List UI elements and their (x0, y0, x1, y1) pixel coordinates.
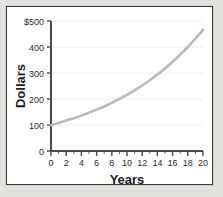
x-tick-label: 8 (109, 158, 114, 168)
x-tick-label: 12 (137, 158, 147, 168)
chart-paper: 0100200300400$500 02468101214161820 Doll… (6, 6, 213, 185)
x-tick-label: 10 (122, 158, 132, 168)
x-tick-label: 6 (94, 158, 99, 168)
y-tick-label: 400 (29, 43, 44, 53)
x-tick-label: 18 (183, 158, 193, 168)
data-series-line (51, 30, 203, 125)
x-tick-label: 20 (198, 158, 208, 168)
y-tick-label: 100 (29, 121, 44, 131)
y-tick-label: 0 (39, 147, 44, 157)
x-tick-group: 02468101214161820 (48, 151, 208, 168)
gridlines-group (51, 21, 203, 125)
y-tick-label: $500 (24, 17, 44, 27)
y-tick-label: 300 (29, 69, 44, 79)
y-tick-group: 0100200300400$500 (24, 17, 51, 157)
x-tick-label: 2 (64, 158, 69, 168)
line-chart: 0100200300400$500 02468101214161820 Doll… (7, 7, 212, 184)
x-tick-label: 4 (79, 158, 84, 168)
y-tick-label: 200 (29, 95, 44, 105)
figure-container: 0100200300400$500 02468101214161820 Doll… (0, 0, 223, 197)
y-axis-title: Dollars (13, 64, 28, 108)
x-tick-label: 14 (152, 158, 162, 168)
x-axis-title: Years (110, 172, 145, 184)
x-tick-label: 0 (48, 158, 53, 168)
x-tick-label: 16 (168, 158, 178, 168)
